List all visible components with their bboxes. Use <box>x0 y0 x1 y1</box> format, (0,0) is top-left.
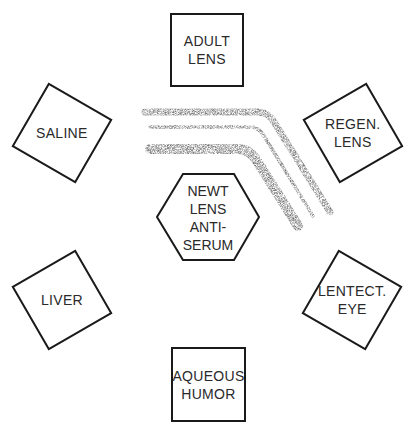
well-aqueous-humor: AQUEOUS HUMOR <box>171 347 246 422</box>
well-label: ADULT LENS <box>184 32 230 68</box>
well-label: REGEN. LENS <box>325 115 380 151</box>
well-label: AQUEOUS HUMOR <box>172 367 244 403</box>
well-label: LENTECT. EYE <box>318 282 387 318</box>
well-adult-lens: ADULT LENS <box>170 13 244 87</box>
center-well-label: NEWT LENS ANTI- SERUM <box>157 176 259 260</box>
well-label: LIVER <box>41 291 83 309</box>
immunodiffusion-diagram: NEWT LENS ANTI- SERUM ADULT LENS REGEN. … <box>0 0 410 430</box>
well-label: SALINE <box>36 124 88 142</box>
